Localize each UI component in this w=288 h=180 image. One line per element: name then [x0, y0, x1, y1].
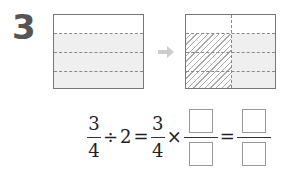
- denominator-answer-box[interactable]: [189, 142, 213, 166]
- numerator: 3: [152, 113, 163, 135]
- fraction-bar: [87, 137, 101, 138]
- divisor: 2: [120, 127, 131, 147]
- answer-fraction-result: [237, 107, 271, 168]
- vertical-divider-line: [231, 15, 232, 88]
- answer-fraction-multiplier: [184, 107, 218, 168]
- denominator: 4: [88, 140, 99, 162]
- fraction-three-quarters: 3 4: [151, 113, 165, 162]
- problem-number: 3: [12, 8, 36, 46]
- denominator-answer-box[interactable]: [242, 142, 266, 166]
- fraction-bar: [151, 137, 165, 138]
- equation: 3 4 ÷ 2 = 3 4 × =: [86, 104, 272, 170]
- hatched-region: [186, 34, 231, 88]
- multiplication-sign: ×: [167, 127, 182, 147]
- fraction-bar: [237, 137, 271, 138]
- shaded-region: [231, 34, 275, 88]
- numerator: 3: [88, 113, 99, 135]
- shaded-region: [54, 34, 143, 88]
- left-fraction-diagram: [53, 14, 144, 89]
- divider-line: [54, 52, 143, 53]
- divider-line: [54, 71, 143, 72]
- equals-sign: =: [220, 127, 235, 147]
- denominator: 4: [152, 140, 163, 162]
- right-fraction-diagram: [185, 14, 276, 89]
- equals-sign: =: [134, 127, 149, 147]
- right-arrow-icon: [158, 46, 174, 58]
- division-sign: ÷: [103, 127, 118, 147]
- fraction-bar: [184, 137, 218, 138]
- numerator-answer-box[interactable]: [189, 109, 213, 133]
- divider-line: [54, 33, 143, 34]
- numerator-answer-box[interactable]: [242, 109, 266, 133]
- fraction-three-quarters: 3 4: [87, 113, 101, 162]
